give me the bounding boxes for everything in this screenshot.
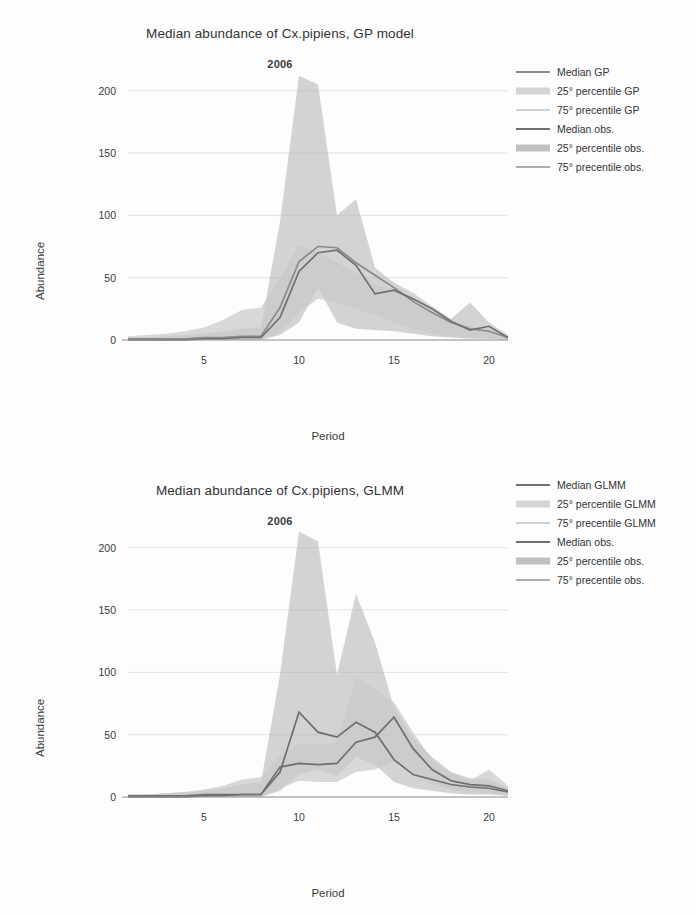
- figure-gp-model: Median abundance of Cx.pipiens, GP model…: [0, 0, 697, 460]
- y-tick-label: 150: [98, 604, 116, 616]
- legend-item-label: 25° percentile obs.: [557, 555, 644, 567]
- legend-item-label: Median obs.: [557, 536, 614, 548]
- legend-line-swatch: [516, 537, 550, 547]
- legend-line-swatch: [516, 162, 550, 172]
- legend-item-label: 75° precentile GLMM: [557, 517, 656, 529]
- chart-page: Median abundance of Cx.pipiens, GP model…: [0, 0, 697, 917]
- x-tick-label: 20: [483, 811, 495, 823]
- legend-item-label: 75° precentile obs.: [557, 574, 644, 586]
- figure-glmm: Median abundance of Cx.pipiens, GLMM 200…: [0, 457, 697, 917]
- legend-item-label: 75° precentile obs.: [557, 161, 644, 173]
- legend-glmm: Median GLMM25° percentile GLMM75° precen…: [516, 475, 656, 589]
- y-tick-label: 0: [110, 334, 116, 346]
- legend-item-label: 75° precentile GP: [557, 104, 639, 116]
- legend-item[interactable]: 25° percentile GP: [516, 81, 644, 100]
- y-tick-label: 150: [98, 147, 116, 159]
- x-axis-label-glmm: Period: [118, 887, 538, 899]
- legend-item[interactable]: Median obs.: [516, 119, 644, 138]
- legend-item-label: 25° percentile obs.: [557, 142, 644, 154]
- legend-item-label: 25° percentile GLMM: [557, 498, 656, 510]
- legend-item-label: Median GP: [557, 66, 610, 78]
- legend-item[interactable]: 25° percentile GLMM: [516, 494, 656, 513]
- y-axis-label-glmm: Abundance: [34, 699, 46, 757]
- x-tick-label: 10: [293, 354, 305, 366]
- legend-line-swatch: [516, 480, 550, 490]
- legend-item[interactable]: 25° percentile obs.: [516, 551, 656, 570]
- plot-area-gp: 0501001502005101520: [0, 0, 560, 460]
- y-tick-label: 50: [104, 272, 116, 284]
- x-tick-label: 5: [201, 811, 207, 823]
- x-tick-label: 5: [201, 354, 207, 366]
- plot-area-glmm: 0501001502005101520: [0, 457, 560, 917]
- legend-band-swatch: [516, 86, 550, 96]
- legend-line-swatch: [516, 575, 550, 585]
- legend-item[interactable]: Median GLMM: [516, 475, 656, 494]
- legend-item[interactable]: 75° precentile GP: [516, 100, 644, 119]
- x-tick-label: 15: [388, 811, 400, 823]
- y-tick-label: 50: [104, 729, 116, 741]
- legend-item[interactable]: 75° precentile GLMM: [516, 513, 656, 532]
- legend-item[interactable]: Median GP: [516, 62, 644, 81]
- legend-line-swatch: [516, 105, 550, 115]
- legend-item[interactable]: 75° precentile obs.: [516, 570, 656, 589]
- band-model-25-75: [128, 245, 508, 340]
- x-tick-label: 20: [483, 354, 495, 366]
- legend-line-swatch: [516, 67, 550, 77]
- legend-item-label: Median GLMM: [557, 479, 626, 491]
- legend-line-swatch: [516, 124, 550, 134]
- legend-item[interactable]: Median obs.: [516, 532, 656, 551]
- y-tick-label: 0: [110, 791, 116, 803]
- y-tick-label: 100: [98, 209, 116, 221]
- legend-item-label: 25° percentile GP: [557, 85, 639, 97]
- legend-band-swatch: [516, 499, 550, 509]
- legend-item-label: Median obs.: [557, 123, 614, 135]
- legend-line-swatch: [516, 518, 550, 528]
- y-tick-label: 200: [98, 542, 116, 554]
- band-obs-25-75: [128, 76, 508, 340]
- x-axis-label-gp: Period: [118, 430, 538, 442]
- legend-band-swatch: [516, 143, 550, 153]
- y-tick-label: 200: [98, 85, 116, 97]
- x-tick-label: 10: [293, 811, 305, 823]
- legend-gp: Median GP25° percentile GP75° precentile…: [516, 62, 644, 176]
- x-tick-label: 15: [388, 354, 400, 366]
- legend-band-swatch: [516, 556, 550, 566]
- legend-item[interactable]: 75° precentile obs.: [516, 157, 644, 176]
- legend-item[interactable]: 25° percentile obs.: [516, 138, 644, 157]
- y-axis-label-gp: Abundance: [34, 242, 46, 300]
- y-tick-label: 100: [98, 666, 116, 678]
